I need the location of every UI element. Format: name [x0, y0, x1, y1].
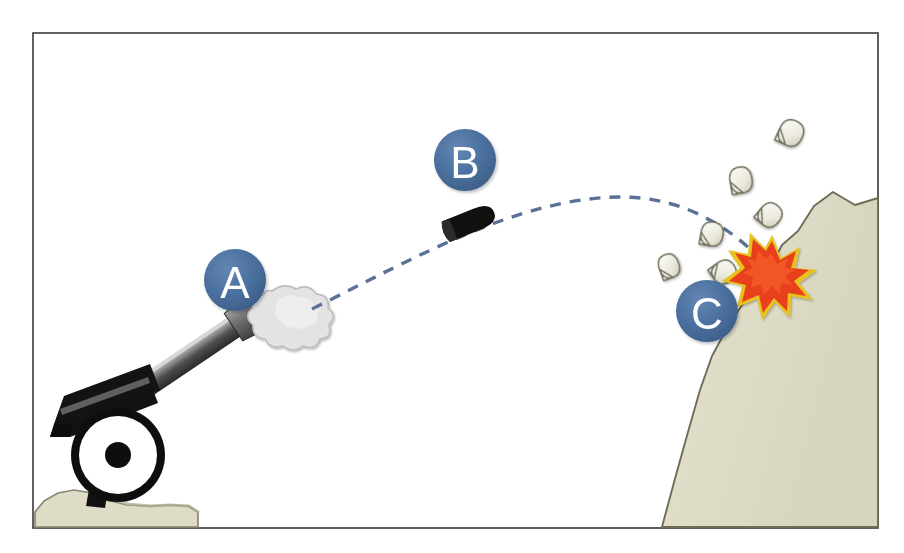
- cannon-wheel: [71, 408, 165, 502]
- marker-c-label: C: [691, 289, 723, 338]
- illustration-canvas: A B C: [0, 0, 904, 553]
- cannon-trajectory-scene: A B C: [0, 0, 904, 553]
- marker-a-label: A: [220, 258, 250, 307]
- marker-a[interactable]: A: [204, 249, 266, 311]
- marker-c[interactable]: C: [676, 280, 738, 342]
- marker-b-label: B: [450, 138, 479, 187]
- marker-b[interactable]: B: [434, 129, 496, 191]
